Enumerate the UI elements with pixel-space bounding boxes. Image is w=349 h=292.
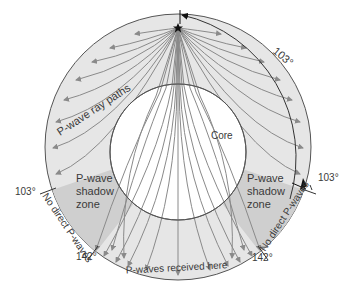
svg-text:zone: zone	[76, 198, 100, 210]
svg-text:P-wave: P-wave	[247, 172, 284, 184]
angle-label-right-103: 103°	[318, 172, 339, 183]
svg-text:zone: zone	[247, 198, 271, 210]
core-label: Core	[211, 130, 233, 141]
p-wave-diagram: 103° P-wave ray paths Core P-wave shadow…	[0, 0, 349, 292]
angle-label-left-103: 103°	[15, 186, 36, 197]
svg-text:shadow: shadow	[76, 185, 114, 197]
svg-text:shadow: shadow	[247, 185, 285, 197]
angle-label-right-142: 142°	[252, 252, 273, 263]
svg-text:P-wave: P-wave	[76, 172, 113, 184]
